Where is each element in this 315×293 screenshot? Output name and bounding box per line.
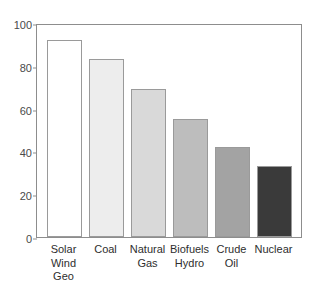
y-axis-tick-label: 40 <box>20 148 37 159</box>
y-axis-tick-label: 100 <box>14 20 37 31</box>
bar <box>47 40 82 237</box>
bar-chart: 020406080100 Solar Wind GeoCoalNatural G… <box>0 0 315 293</box>
y-axis-tick-label: 80 <box>20 62 37 73</box>
bar <box>131 89 166 237</box>
y-axis-tick-label: 60 <box>20 105 37 116</box>
bar <box>173 119 208 237</box>
bar <box>215 147 250 237</box>
bar <box>89 59 124 237</box>
plot-area: 020406080100 <box>36 24 302 238</box>
x-axis-category-label: Nuclear <box>234 243 314 257</box>
bar <box>257 166 292 237</box>
y-axis-tick-label: 20 <box>20 191 37 202</box>
